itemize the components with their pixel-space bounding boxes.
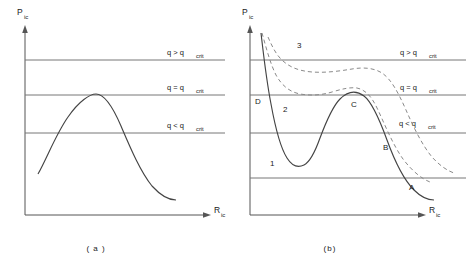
panel-a-q-equal-main: q = q xyxy=(167,83,184,92)
panel-a-y-axis-arrowhead xyxy=(22,25,28,33)
panel-a-curve xyxy=(38,94,176,200)
panel-a-caption: ( a ) xyxy=(86,244,105,253)
panel-b-label-q-less-crit: q < q crit xyxy=(399,119,436,130)
panel-b-caption: (b) xyxy=(324,244,337,253)
panel-b-q-less-main: q < q xyxy=(399,119,416,128)
figure-container: P ic R ic q > q crit q = q crit q < q cr… xyxy=(0,0,470,263)
panel-b-point-label-2: 2 xyxy=(283,105,288,114)
panel-b-x-axis-label: R ic xyxy=(429,205,440,218)
panel-b-y-axis-label: P ic xyxy=(242,7,253,20)
panel-b-x-label-main: R xyxy=(429,205,435,215)
panel-a-x-axis-arrowhead xyxy=(203,212,211,218)
panel-b-point-label-3: 3 xyxy=(297,41,302,50)
panel-b-point-label-A: A xyxy=(409,183,415,192)
panel-b-x-axis-arrowhead xyxy=(418,212,426,218)
panel-b-q-less-sub: crit xyxy=(428,124,436,130)
panel-b-label-q-greater-crit: q > q crit xyxy=(400,48,437,59)
panel-a-q-less-sub: crit xyxy=(196,126,204,132)
panel-a-y-axis-label: P ic xyxy=(17,7,28,20)
panel-a-label-q-less-crit: q < q crit xyxy=(167,121,204,132)
panel-b-curve-main-solid xyxy=(261,33,434,200)
panel-a-label-q-greater-crit: q > q crit xyxy=(167,48,204,59)
panel-b-y-label-sub: ic xyxy=(249,14,253,20)
panel-b-point-label-B: B xyxy=(383,143,388,152)
panel-b-curve-upper-dashed xyxy=(268,37,454,173)
panel-a-q-greater-sub: crit xyxy=(196,53,204,59)
figure-svg: P ic R ic q > q crit q = q crit q < q cr… xyxy=(0,0,470,263)
panel-b-q-equal-sub: crit xyxy=(429,88,437,94)
panel-b-q-greater-main: q > q xyxy=(400,48,417,57)
panel-b-q-greater-sub: crit xyxy=(429,53,437,59)
panel-a-y-label-main: P xyxy=(17,7,23,17)
panel-a-x-axis-label: R ic xyxy=(214,205,225,218)
panel-a-q-greater-main: q > q xyxy=(167,48,184,57)
panel-a: P ic R ic q > q crit q = q crit q < q cr… xyxy=(17,7,225,253)
panel-b-y-label-main: P xyxy=(242,7,248,17)
panel-b-y-axis-arrowhead xyxy=(247,25,253,33)
panel-b-q-equal-main: q = q xyxy=(400,83,417,92)
panel-b-x-label-sub: ic xyxy=(436,212,440,218)
panel-b-point-label-C: C xyxy=(351,100,357,109)
panel-b-point-label-D: D xyxy=(255,97,261,106)
panel-a-y-label-sub: ic xyxy=(24,14,28,20)
panel-b: P ic R ic q > q crit q = q crit q < q cr… xyxy=(242,7,466,253)
panel-a-label-q-equal-crit: q = q crit xyxy=(167,83,204,94)
panel-a-q-equal-sub: crit xyxy=(196,88,204,94)
panel-b-point-label-1: 1 xyxy=(270,159,275,168)
panel-b-label-q-equal-crit: q = q crit xyxy=(400,83,437,94)
panel-a-q-less-main: q < q xyxy=(167,121,184,130)
panel-a-x-label-sub: ic xyxy=(221,212,225,218)
panel-a-x-label-main: R xyxy=(214,205,220,215)
